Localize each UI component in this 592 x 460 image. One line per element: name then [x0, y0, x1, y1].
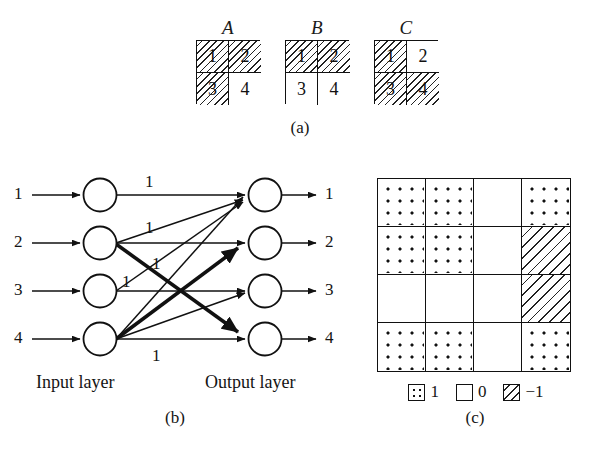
input-label-1: 1	[14, 184, 23, 204]
pattern-cell: 2	[407, 41, 439, 73]
pattern-grid-C: 1 2 3 4	[374, 40, 438, 104]
input-feed-arrows	[32, 195, 80, 339]
input-layer-caption: Input layer	[36, 372, 114, 393]
matrix-cell	[426, 323, 474, 371]
input-node-3	[84, 275, 117, 308]
pattern-cell-label: 1	[208, 46, 217, 67]
input-label-2: 2	[14, 232, 23, 252]
pattern-cell-label: 2	[419, 46, 428, 67]
output-node-1	[249, 179, 282, 212]
connection-i3-o1	[116, 202, 243, 291]
pattern-cell-label: 2	[241, 46, 250, 67]
pattern-grid-B: 1 2 3 4	[285, 40, 349, 104]
matrix-cell	[522, 227, 570, 275]
connection-i4-o2	[116, 248, 238, 339]
connection-i4-o3	[116, 293, 245, 339]
matrix-cell	[426, 275, 474, 323]
output-label-3: 3	[325, 280, 334, 300]
pattern-grid-A: 1 2 3 4	[196, 40, 260, 104]
pattern-title-A: A	[196, 18, 260, 40]
network-connections	[116, 195, 245, 339]
matrix-legend: 1 0 −1	[374, 382, 578, 402]
output-layer-nodes	[249, 179, 282, 356]
legend-label: 0	[478, 382, 487, 402]
input-label-3: 3	[14, 280, 23, 300]
panel-a-patterns: A 1 2 3 4 B 1 2 3 4 C 1 2 3 4 (a)	[0, 0, 592, 150]
pattern-cell-label: 1	[297, 46, 306, 67]
matrix-cell	[522, 179, 570, 227]
legend-swatch-dot-icon	[408, 384, 425, 401]
matrix-cell	[474, 227, 522, 275]
legend-swatch-blank-icon	[456, 384, 473, 401]
pattern-title-C: C	[374, 18, 438, 40]
legend-label: 1	[430, 382, 439, 402]
input-node-2	[84, 227, 117, 260]
pattern-cell: 1	[197, 41, 229, 73]
input-node-1	[84, 179, 117, 212]
connection-i2-o1	[116, 200, 243, 243]
legend-item-one: 1	[408, 382, 439, 402]
legend-swatch-hatch-icon	[503, 384, 520, 401]
matrix-cell	[474, 275, 522, 323]
input-label-4: 4	[14, 328, 23, 348]
pattern-cell: 3	[286, 73, 318, 105]
pattern-cell: 3	[197, 73, 229, 105]
connection-i4-o1	[116, 197, 243, 339]
pattern-cell: 4	[229, 73, 261, 105]
matrix-cell	[522, 275, 570, 323]
matrix-cell	[474, 179, 522, 227]
legend-label: −1	[525, 382, 543, 402]
matrix-cell	[522, 323, 570, 371]
output-label-4: 4	[325, 328, 334, 348]
pattern-cell-label: 3	[208, 79, 217, 100]
pattern-cell: 2	[229, 41, 261, 73]
matrix-cell	[426, 227, 474, 275]
panel-b-network: 1 2 3 4 1 2 3 4 1 1 1 1 1 Input layer Ou…	[0, 150, 360, 460]
matrix-cell	[378, 179, 426, 227]
pattern-block-C: C 1 2 3 4	[374, 18, 438, 104]
legend-item-zero: 0	[456, 382, 487, 402]
output-label-2: 2	[325, 232, 334, 252]
legend-item-minus-one: −1	[503, 382, 543, 402]
panel-c-weight-matrix: 1 0 −1 (c)	[360, 150, 592, 460]
output-node-2	[249, 227, 282, 260]
output-node-3	[249, 275, 282, 308]
pattern-cell: 4	[318, 73, 350, 105]
weight-matrix-grid	[377, 178, 571, 372]
pattern-cell-label: 2	[330, 46, 339, 67]
matrix-cell	[378, 275, 426, 323]
output-node-4	[249, 323, 282, 356]
pattern-cell-label: 4	[241, 79, 250, 100]
pattern-cell: 4	[407, 73, 439, 105]
pattern-title-B: B	[285, 18, 349, 40]
input-layer-nodes	[84, 179, 117, 356]
pattern-cell-label: 3	[297, 79, 306, 100]
matrix-cell	[378, 323, 426, 371]
matrix-cell	[378, 227, 426, 275]
pattern-cell-label: 4	[419, 79, 428, 100]
weight-label-i3-o1: 1	[122, 272, 131, 292]
caption-b: (b)	[130, 408, 220, 428]
weight-label-i2-o1: 1	[145, 218, 154, 238]
output-label-1: 1	[325, 184, 334, 204]
weight-label-i2-o4: 1	[152, 254, 161, 274]
input-node-4	[84, 323, 117, 356]
pattern-cell: 1	[286, 41, 318, 73]
pattern-cell: 3	[375, 73, 407, 105]
pattern-cell-label: 1	[386, 46, 395, 67]
pattern-block-B: B 1 2 3 4	[285, 18, 349, 104]
pattern-cell: 1	[375, 41, 407, 73]
neural-network-diagram	[0, 150, 360, 400]
pattern-block-A: A 1 2 3 4	[196, 18, 260, 104]
pattern-cell-label: 3	[386, 79, 395, 100]
matrix-cell	[426, 179, 474, 227]
caption-c: (c)	[430, 408, 520, 428]
pattern-cell: 2	[318, 41, 350, 73]
output-layer-caption: Output layer	[205, 372, 295, 393]
weight-label-i4-o4: 1	[152, 346, 161, 366]
matrix-cell	[474, 323, 522, 371]
caption-a: (a)	[255, 118, 345, 138]
weight-label-i1-o1: 1	[145, 172, 154, 192]
pattern-cell-label: 4	[330, 79, 339, 100]
output-feed-arrows	[282, 195, 316, 339]
